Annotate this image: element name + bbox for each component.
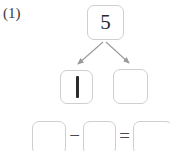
equals-sign: = <box>116 126 133 145</box>
number-bond-whole-value: 5 <box>100 12 111 33</box>
equation-operand-1-box[interactable] <box>32 121 66 151</box>
arrow-right <box>106 42 129 63</box>
arrow-left <box>78 42 103 64</box>
problem-number-label: (1) <box>3 4 21 22</box>
worksheet-problem: (1) 5 − = <box>0 0 170 151</box>
number-bond-part-left-value <box>76 76 78 98</box>
minus-sign: − <box>67 126 82 145</box>
equation-operand-2-box[interactable] <box>83 121 116 151</box>
number-bond-whole-box[interactable]: 5 <box>87 5 124 40</box>
number-bond-part-right-box[interactable] <box>113 69 148 104</box>
number-bond-part-left-box[interactable] <box>60 70 93 104</box>
equation-result-box[interactable] <box>133 121 170 151</box>
